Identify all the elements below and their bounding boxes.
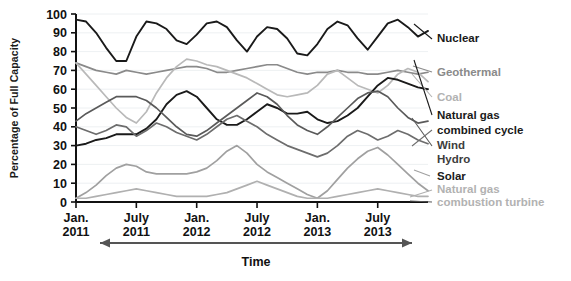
chart-container: 0102030405060708090100 Jan.2011July2011J… bbox=[0, 0, 571, 281]
legend-leader-line bbox=[414, 170, 430, 176]
legend-leader-lines bbox=[410, 24, 432, 202]
x-tick-label: Jan.2013 bbox=[303, 211, 331, 239]
time-axis-arrow bbox=[100, 239, 412, 248]
legend-label-solar: Solar bbox=[437, 170, 466, 182]
x-tick-label: July2012 bbox=[243, 211, 271, 239]
x-tick-label: Jan.2012 bbox=[183, 211, 211, 239]
y-tick-label: 80 bbox=[53, 45, 67, 59]
y-tick-label: 50 bbox=[53, 102, 67, 116]
legend-label-natural-gas: Natural gas bbox=[437, 109, 500, 121]
y-tick-label: 40 bbox=[53, 120, 67, 134]
x-axis-title: Time bbox=[242, 255, 271, 269]
series-line-geothermal bbox=[76, 63, 428, 74]
y-axis-title: Percentage of Full Capacity bbox=[8, 38, 20, 178]
x-tick-label: Jan.2011 bbox=[62, 211, 89, 239]
x-tick-labels: Jan.2011July2011Jan.2012July2012Jan.2013… bbox=[62, 211, 391, 239]
x-tick-label: July2013 bbox=[364, 211, 392, 239]
series-line-natural-gas-combustion-turbine bbox=[76, 181, 428, 198]
legend-label-coal: Coal bbox=[437, 91, 462, 103]
capacity-factor-line-chart: 0102030405060708090100 Jan.2011July2011J… bbox=[0, 0, 571, 281]
series-line-hydro bbox=[76, 116, 428, 157]
y-tick-labels: 0102030405060708090100 bbox=[46, 8, 67, 210]
y-tick-label: 60 bbox=[53, 83, 67, 97]
legend-label-nuclear: Nuclear bbox=[437, 32, 480, 44]
y-tick-label: 100 bbox=[46, 8, 67, 22]
legend-label-natural-gas: Natural gas bbox=[437, 183, 500, 195]
legend-label-combustion-turbine: combustion turbine bbox=[437, 196, 544, 208]
y-tick-label: 30 bbox=[53, 139, 67, 153]
series-line-nuclear bbox=[76, 20, 428, 61]
y-tick-label: 10 bbox=[53, 177, 67, 191]
legend-label-hydro: Hydro bbox=[437, 153, 470, 165]
y-tick-label: 0 bbox=[60, 196, 67, 210]
legend-label-wind: Wind bbox=[437, 139, 465, 151]
y-tick-label: 20 bbox=[53, 158, 67, 172]
legend-label-combined-cycle: combined cycle bbox=[437, 124, 523, 136]
legend: NuclearGeothermalCoalNatural gascombined… bbox=[437, 32, 544, 208]
series-line-natural-gas-combined-cycle bbox=[76, 78, 428, 146]
y-tick-label: 90 bbox=[53, 26, 67, 40]
series-lines bbox=[76, 20, 428, 199]
x-tick-label: July2011 bbox=[123, 211, 150, 239]
legend-leader-line bbox=[414, 24, 432, 39]
y-tick-label: 70 bbox=[53, 64, 67, 78]
legend-label-geothermal: Geothermal bbox=[437, 66, 501, 78]
